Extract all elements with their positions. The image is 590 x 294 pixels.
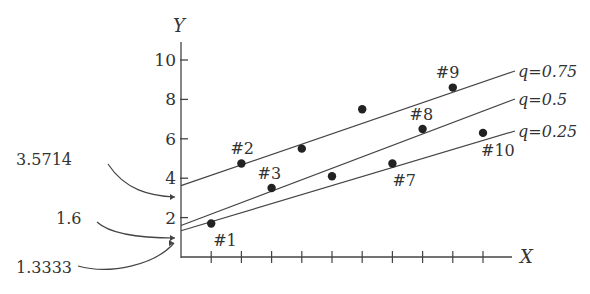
point-label: #2 [230,139,254,158]
intercept-value-label: 1.6 [56,209,81,228]
data-point [418,125,426,133]
quantile-regression-chart: 246810 Y X q=0.75q=0.5q=0.25 #1#2#3#7#8#… [0,0,590,294]
y-tick-label: 10 [154,50,176,70]
y-tick-label: 2 [165,208,176,228]
data-point [267,184,275,192]
quantile-line-label: q=0.75 [518,62,577,81]
quantile-line [181,71,515,186]
quantile-line-label: q=0.5 [518,90,567,109]
intercept-value-label: 1.3333 [16,258,72,277]
y-axis-label: Y [173,15,187,36]
point-label: #1 [213,231,237,250]
data-point [298,144,306,152]
point-label: #9 [436,63,460,82]
data-point [388,159,396,167]
arrow-curve [97,222,175,238]
intercept-value-label: 3.5714 [16,150,72,169]
data-point [449,83,457,91]
x-axis-label: X [518,246,534,267]
arrow-curve [78,243,174,269]
point-label: #3 [258,164,282,183]
data-point [328,172,336,180]
y-tick-label: 8 [165,89,176,109]
quantile-line [181,99,515,225]
point-label: #7 [392,171,416,190]
quantile-line-label: q=0.25 [518,122,577,141]
point-label: #8 [410,105,434,124]
data-point [358,105,366,113]
y-tick-label: 6 [165,129,176,149]
y-tick-label: 4 [165,168,176,188]
data-point [237,159,245,167]
intercept-annotations: 3.57141.61.3333 [16,150,175,277]
point-label: #10 [481,141,515,160]
data-point [479,129,487,137]
data-points: #1#2#3#7#8#9#10 [207,63,515,250]
arrowhead-icon [170,235,175,241]
data-point [207,219,215,227]
y-ticks: 246810 [154,50,188,228]
arrowhead-icon [170,194,175,200]
